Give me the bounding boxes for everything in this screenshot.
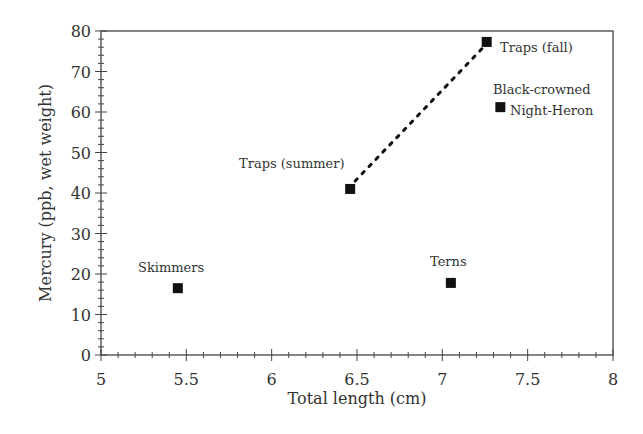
data-point-marker [345, 184, 355, 194]
x-tick-label: 8 [608, 370, 618, 389]
x-tick-label: 5 [96, 370, 106, 389]
label-heron-line2: Night-Heron [510, 103, 594, 118]
label-traps-summer: Traps (summer) [239, 156, 345, 171]
data-point-marker [495, 102, 505, 112]
data-point-marker [482, 37, 492, 47]
label-terns: Terns [430, 254, 467, 269]
y-tick-label: 80 [71, 22, 91, 41]
y-tick-label: 70 [71, 63, 91, 82]
label-skimmers: Skimmers [138, 260, 204, 275]
y-tick-label: 50 [71, 144, 91, 163]
y-tick-label: 0 [81, 346, 91, 365]
scatter-chart: 01020304050607080 55.566.577.58 Total le… [0, 0, 643, 434]
x-tick-label: 7.5 [515, 370, 540, 389]
x-axis-title: Total length (cm) [288, 389, 427, 408]
x-tick-label: 6.5 [344, 370, 369, 389]
x-tick-label: 5.5 [174, 370, 199, 389]
label-traps-fall: Traps (fall) [500, 40, 573, 55]
data-point-marker [173, 283, 183, 293]
y-tick-label: 30 [71, 225, 91, 244]
y-tick-label: 20 [71, 265, 91, 284]
x-tick-label: 6 [267, 370, 277, 389]
y-axis-title: Mercury (ppb, wet weight) [36, 84, 55, 302]
y-tick-label: 60 [71, 103, 91, 122]
data-point-marker [446, 278, 456, 288]
label-heron-line1: Black-crowned [493, 82, 591, 97]
y-tick-label: 10 [71, 306, 91, 325]
plot-frame [101, 31, 613, 355]
trend-dashed-line [355, 48, 483, 181]
y-tick-label: 40 [71, 184, 91, 203]
x-tick-label: 7 [437, 370, 447, 389]
